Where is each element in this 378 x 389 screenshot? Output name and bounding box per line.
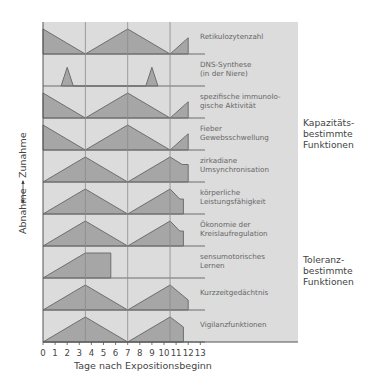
row-label-line: (in der Niere) [200,70,298,79]
row-label: FieberGewebsschwellung [200,125,298,142]
row-label: Vigilanzfunktionen [200,321,298,330]
x-tick-label: 3 [77,348,82,358]
x-tick-label: 5 [101,348,106,358]
row-label-line: gische Aktivität [200,102,298,111]
row-label: Kurzzeitgedächtnis [200,289,298,298]
group-label-line: Toleranz- [303,254,354,265]
group-label-line: Kapazitäts- [303,117,354,128]
x-tick-label: 0 [40,348,45,358]
row-label: DNS-Synthese(in der Niere) [200,61,298,78]
chart-canvas [0,0,378,389]
y-axis-label-low: Abnahme [17,189,28,235]
x-tick-label: 2 [64,348,69,358]
row-label-line: Vigilanzfunktionen [200,321,298,330]
row-label: Ökonomie derKreislaufregulation [200,221,298,238]
x-tick-label: 7 [125,348,130,358]
x-tick-label: 6 [113,348,118,358]
x-tick-label: 8 [137,348,142,358]
x-tick-label: 10 [159,348,170,358]
y-axis-label-high: Zunahme [17,133,28,179]
row-label: Retikulozytenzahl [200,33,298,42]
row-label-line: Retikulozytenzahl [200,33,298,42]
x-tick-label: 4 [89,348,94,358]
row-label-line: Gewebsschwellung [200,134,298,143]
row-label-line: Leistungsfähigkeit [200,198,298,207]
row-label-line: Lernen [200,262,298,271]
row-label-line: Kreislaufregulation [200,230,298,239]
group-label-line: Funktionen [303,139,354,150]
group-label-tolerance: Toleranz- bestimmte Funktionen [303,254,354,287]
group-label-line: bestimmte [303,265,354,276]
row-label: sensumotorischesLernen [200,253,298,270]
x-tick-label: 1 [52,348,57,358]
x-tick-label: 12 [183,348,194,358]
group-label-capacity: Kapazitäts- bestimmte Funktionen [303,117,354,150]
row-label-line: Kurzzeitgedächtnis [200,289,298,298]
row-label-line: Umsynchronisation [200,166,298,175]
x-axis-label: Tage nach Expositionsbeginn [74,360,212,371]
x-tick-label: 9 [149,348,154,358]
group-label-line: Funktionen [303,276,354,287]
row-label: spezifische immunolo-gische Aktivität [200,93,298,110]
x-tick-label: 11 [171,348,182,358]
x-tick-label: 13 [195,348,206,358]
arrow-up-icon [21,180,24,184]
row-label: zirkadianeUmsynchronisation [200,157,298,174]
row-label: körperlicheLeistungsfähigkeit [200,189,298,206]
group-label-line: bestimmte [303,128,354,139]
